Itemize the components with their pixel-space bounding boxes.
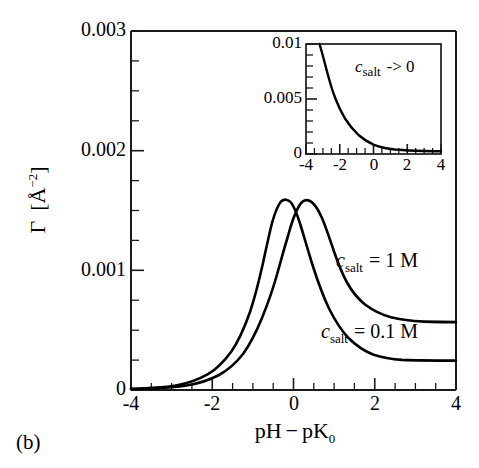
figure-panel-b: 0.003 0.002 0.001 0 -4 -2 0 2 4 pH−pK0 Γ… xyxy=(0,0,479,468)
inset-y-tick-label-0.005: 0.005 xyxy=(220,88,302,108)
x-tick-label--4: -4 xyxy=(111,392,151,415)
x-tick-label-0: 0 xyxy=(274,392,314,415)
inset-x-tick-label-4: 4 xyxy=(425,155,457,175)
x-tick-label-2: 2 xyxy=(355,392,395,415)
x-axis-title-ph: pH xyxy=(255,418,282,443)
inset-y-tick-label-0.01: 0.01 xyxy=(220,33,302,53)
y-tick-label-0.003: 0.003 xyxy=(4,18,126,41)
y-axis-ticks xyxy=(131,31,144,390)
inset-x-tick-label-0: 0 xyxy=(358,155,390,175)
x-tick-label--2: -2 xyxy=(192,392,232,415)
inset-annotation-rest: -> 0 xyxy=(381,57,415,76)
x-tick-label-4: 4 xyxy=(436,392,476,415)
curve-label-0p1M-sub: salt xyxy=(330,331,348,346)
inset-x-tick-label-2: 2 xyxy=(391,155,423,175)
y-axis-title-units: [Å−2] xyxy=(25,166,51,210)
panel-label-b: (b) xyxy=(16,430,41,455)
y-axis-units-exponent: −2 xyxy=(25,174,40,188)
curve-label-1M-sub: salt xyxy=(345,260,363,275)
y-axis-title-symbol: Γ xyxy=(25,221,51,234)
curve-csalt-0p1M xyxy=(131,200,456,389)
inset-x-tick-label--4: -4 xyxy=(290,155,322,175)
inset-annotation-c: c xyxy=(355,57,363,76)
x-axis-title-pk: pK xyxy=(302,418,329,443)
inset-x-tick-label--2: -2 xyxy=(324,155,356,175)
y-axis-units-open: [Å xyxy=(25,188,50,211)
x-axis-title-pk-sub: 0 xyxy=(329,431,336,446)
curve-label-0p1M-rest: = 0.1 M xyxy=(348,320,418,342)
curve-label-1M-rest: = 1 M xyxy=(363,249,418,271)
inset-annotation-csalt-to-0: csalt-> 0 xyxy=(355,57,415,80)
y-axis-units-close: ] xyxy=(25,166,50,173)
curve-label-csalt-1M: csalt= 1 M xyxy=(336,249,418,276)
x-axis-title-minus: − xyxy=(282,418,302,443)
curve-label-0p1M-c: c xyxy=(321,320,330,342)
y-tick-label-0: 0 xyxy=(4,377,126,400)
x-axis-title: pH−pK0 xyxy=(200,418,390,447)
y-axis-title: Γ [Å−2] xyxy=(8,110,68,290)
curve-label-csalt-0p1M: csalt= 0.1 M xyxy=(321,320,418,347)
curve-label-1M-c: c xyxy=(336,249,345,271)
inset-annotation-sub: salt xyxy=(363,64,381,79)
